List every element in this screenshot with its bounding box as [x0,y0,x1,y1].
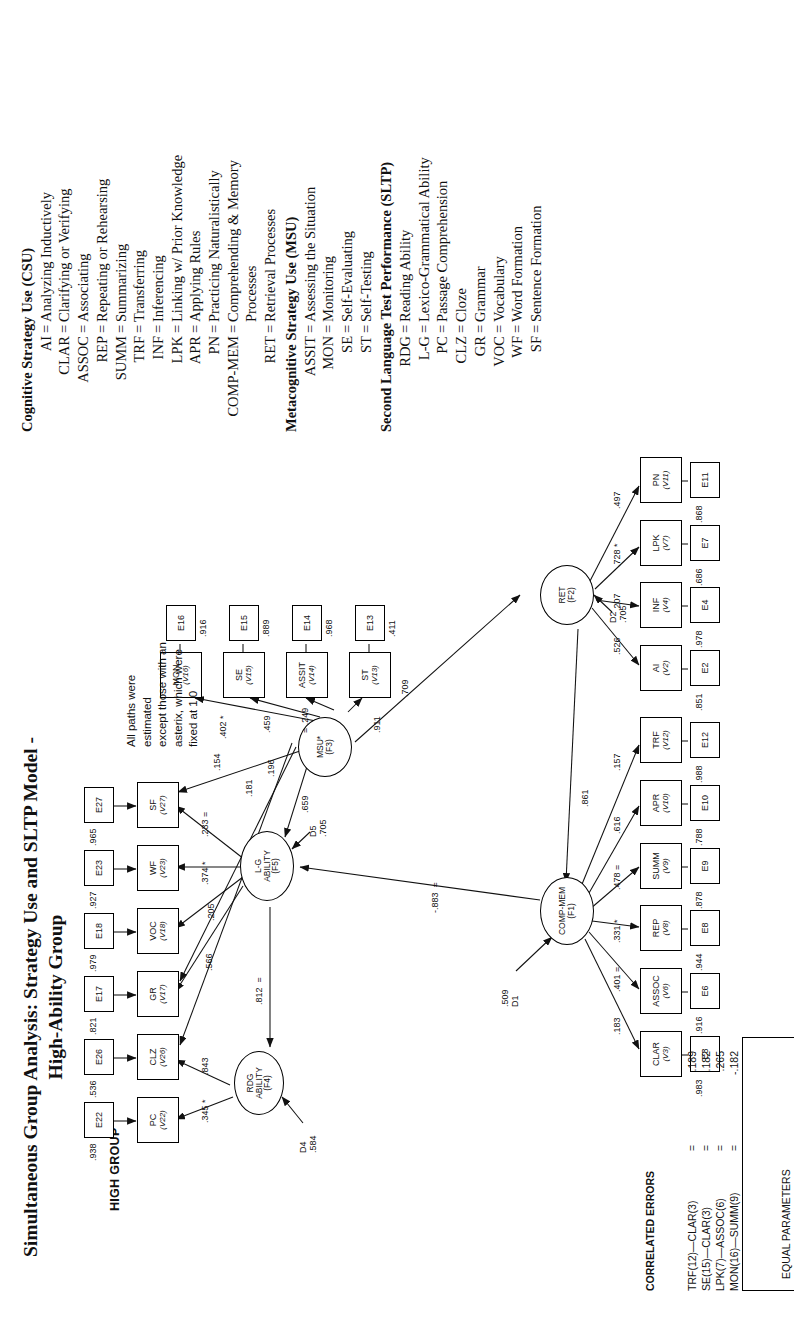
error-box-e26: E26 [84,1039,114,1075]
error-box-e13: E13 [355,605,385,641]
loading-ai: .526 [612,637,622,655]
error-box-e4: E4 [690,587,720,623]
indicator-box-wf: WF(V23) [137,845,179,891]
correlated-error-pair: LPK(7)—ASSOC(6) [714,1151,728,1291]
loading-sf: .233 = [200,812,210,837]
path-f3-f2: .709 [400,679,410,697]
correlated-errors-heading: CORRELATED ERRORS [644,1051,658,1291]
indicator-box-pc: PC(V22) [137,1097,179,1143]
loading-assoc: .401 = [612,967,622,992]
loading-lpk: .728 * [612,543,622,567]
loading-pc: .345 * [200,1099,210,1123]
correlated-error-row: LPK(7)—ASSOC(6)=.265 [714,1051,728,1291]
indicator-box-inf: INF(V4) [640,582,682,628]
error-value-e10: .788 [694,828,704,846]
error-value-e2: .851 [694,693,704,711]
correlated-error-pair: MON(16)—SUMM(9) [728,1151,742,1291]
correlated-error-value: .265 [714,1051,728,1133]
loading-rep: .331 * [612,919,622,943]
error-value-e9: .878 [694,891,704,909]
loading-st: .911 [372,716,382,733]
disturbance-d1: .509D1 [500,989,520,1007]
error-value-e22: .938 [88,1143,98,1161]
error-box-e18: E18 [84,913,114,949]
error-value-e8: .944 [694,953,704,971]
error-box-e11: E11 [690,462,720,498]
indicator-box-rep: REP(V8) [640,905,682,951]
loading-gr: .566 [204,953,214,971]
correlated-error-pair: TRF(12)—CLAR(3) [686,1151,700,1291]
loading-pn: .497 [612,491,622,509]
indicator-box-lpk: LPK(V7) [640,520,682,566]
loading-clar: .183 [612,1017,622,1035]
error-box-e2: E2 [690,650,720,686]
path-f3-clz: .196 [266,759,276,777]
indicator-box-clz: CLZ(V26) [137,1034,179,1080]
indicator-box-pn: PN(V11) [640,457,682,503]
error-value-e4: .978 [694,630,704,648]
correlated-error-equals: = [714,1133,728,1151]
disturbance-d4: D4.584 [298,1135,318,1153]
indicator-box-trf: TRF(V12) [640,717,682,763]
factor-oval-f2: RET (F2) [540,565,594,625]
loading-voc: .205 [206,903,216,921]
error-value-e14: .968 [324,619,334,637]
path-f3-gr: .181 [244,779,254,797]
path-f1-f5: -.883 = [430,882,440,913]
error-box-e6: E6 [690,973,720,1009]
loading-apr: .616 [612,816,622,834]
correlated-error-equals: = [728,1133,742,1151]
indicator-box-summ: SUMM(V9) [640,843,682,889]
error-value-e15: .889 [261,619,271,637]
loading-trf: .157 [612,753,622,771]
path-f2-f1: .861 [580,789,590,807]
error-value-e18: .979 [88,954,98,972]
error-value-e12: .988 [694,765,704,783]
correlated-error-row: SE(15)—CLAR(3)=.182 [700,1051,714,1291]
error-box-e15: E15 [229,605,259,641]
correlated-error-equals: = [686,1133,700,1151]
factor-oval-f4: RDG ABILITY (F4) [234,1051,284,1115]
loading-assit: = .249 [300,708,310,733]
indicator-box-apr: APR(V10) [640,780,682,826]
error-box-e8: E8 [690,910,720,946]
error-box-e22: E22 [84,1102,114,1138]
indicator-box-gr: GR(V17) [137,971,179,1017]
error-box-e23: E23 [84,850,114,886]
disturbance-d5: D5.705 [308,819,328,837]
error-value-e7: .686 [694,568,704,586]
error-box-e27: E27 [84,787,114,823]
loading-se: .459 [262,715,272,733]
error-box-e14: E14 [292,605,322,641]
factor-oval-f1: COMP-MEM (F1) [540,877,594,945]
correlated-error-value: -.182 [728,1051,742,1133]
indicator-box-assoc: ASSOC(V6) [640,968,682,1014]
loading-mon: .402 * [218,715,228,739]
error-box-e12: E12 [690,722,720,758]
error-box-e17: E17 [84,976,114,1012]
indicator-box-voc: VOC(V18) [137,908,179,954]
indicator-box-assit: ASSIT(V14) [286,652,328,698]
loading-summ: .478 = [612,865,622,890]
equal-parameters-heading-1: EQUAL PARAMETERS [780,1043,794,1279]
path-f3-f5: .659 [300,795,310,813]
diagram-canvas: Simultaneous Group Analysis: Strategy Us… [0,0,794,1337]
equal-parameters-block: EQUAL PARAMETERS ACROSS GROUPS (=) ASSOC… [752,1043,794,1279]
indicator-box-ai: AI(V2) [640,645,682,691]
error-value-e23: .927 [88,891,98,909]
error-value-e27: .965 [88,828,98,846]
correlated-error-pair: SE(15)—CLAR(3) [700,1151,714,1291]
indicator-box-se: SE(V15) [223,652,265,698]
error-value-e13: .411 [387,620,397,637]
loading-inf: .207 [612,593,622,611]
path-f3-sf: .154 [212,753,222,771]
loading-clz: .843 [200,1057,210,1075]
path-f5-f4: .812 = [254,977,264,1005]
error-value-e26: .536 [88,1080,98,1098]
correlated-error-equals: = [700,1133,714,1151]
correlated-error-value: .182 [700,1051,714,1133]
error-box-e10: E10 [690,785,720,821]
factor-oval-f5: L-G ABILITY (F5) [240,831,294,901]
correlated-error-row: MON(16)—SUMM(9)=-.182 [728,1051,742,1291]
indicator-box-st: ST(V13) [349,652,391,698]
